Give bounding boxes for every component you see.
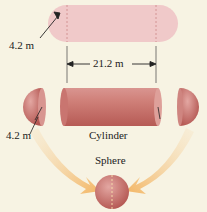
- cylinder-label: Cylinder: [89, 129, 128, 141]
- sphere-label: Sphere: [95, 154, 126, 166]
- left-hemisphere: [23, 88, 46, 126]
- sphere-shape: [95, 175, 129, 209]
- capsule-shape: [48, 5, 178, 42]
- radius-label-bottom: 4.2 m: [6, 129, 31, 141]
- right-hemisphere: [177, 88, 199, 126]
- radius-label-top: 4.2 m: [9, 39, 34, 51]
- arrow-right-to-sphere: [126, 128, 194, 194]
- length-label: 21.2 m: [93, 57, 124, 69]
- diagram-canvas: [0, 0, 207, 212]
- cylinder-shape: [60, 88, 162, 126]
